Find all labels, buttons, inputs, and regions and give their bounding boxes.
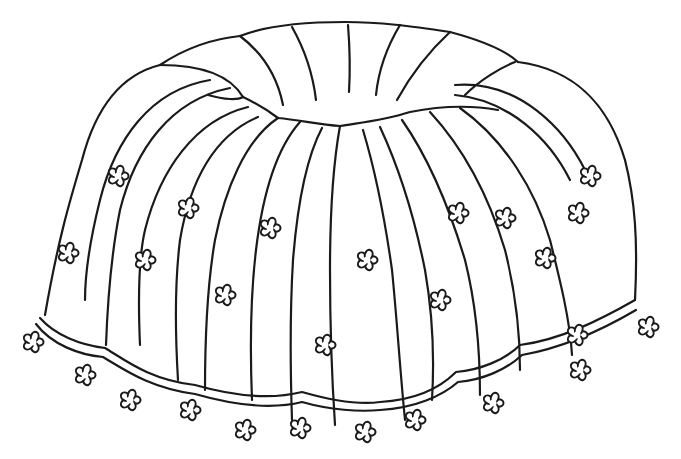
flower-icon	[119, 389, 140, 411]
flower-icon	[482, 392, 503, 414]
flower-icon	[107, 165, 128, 187]
flower-icon	[177, 197, 198, 219]
coloring-page: Bundt cake coloring page line drawing de…	[0, 0, 681, 459]
flower-icon	[22, 331, 43, 353]
flower-icon	[429, 289, 450, 311]
flower-icon	[134, 249, 155, 271]
flower-icon	[494, 207, 515, 229]
flower-icon	[57, 242, 78, 264]
cake-body	[45, 62, 636, 425]
flower-icon	[356, 249, 377, 271]
flower-icon	[637, 316, 658, 338]
flower-icon	[569, 359, 590, 381]
flower-icon	[214, 284, 235, 306]
flower-icon	[179, 399, 200, 421]
flower-icon	[579, 165, 600, 187]
flower-icon	[354, 421, 375, 443]
bundt-cake-drawing	[0, 0, 681, 459]
flower-icon	[259, 217, 280, 239]
flower-icon	[234, 419, 255, 441]
flower-icon	[289, 417, 310, 439]
flower-icon	[74, 364, 95, 386]
flower-icon	[447, 202, 468, 224]
flower-icon	[567, 202, 588, 224]
flower-icon	[404, 409, 425, 431]
